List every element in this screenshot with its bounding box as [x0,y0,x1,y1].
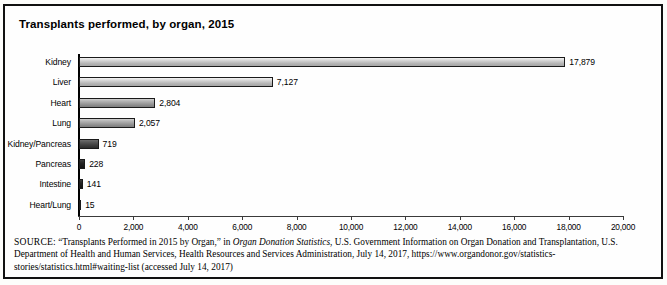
bar-value-label: 2,804 [159,98,180,108]
category-label: Heart [50,98,71,108]
bar [79,57,565,67]
source-italic-title: Organ Donation Statistics [233,237,330,247]
bar-value-label: 7,127 [277,77,298,87]
category-label: Lung [52,118,71,128]
bar-row: Lung2,057 [0,113,660,133]
x-tick-label: 10,000 [339,222,363,232]
x-tick [242,216,243,220]
bar-value-label: 2,057 [139,118,160,128]
category-label: Kidney [45,57,71,67]
source-label: SOURCE: [14,236,56,247]
x-tick-label: 0 [77,222,81,232]
x-tick [623,216,624,220]
bar [79,77,273,87]
x-tick-label: 18,000 [557,222,581,232]
bar [79,139,99,149]
category-label: Kidney/Pancreas [8,139,71,149]
page-title: Transplants performed, by organ, 2015 [19,18,234,30]
bar-row: Pancreas228 [0,154,660,174]
x-tick [297,216,298,220]
bar [79,118,135,128]
x-tick-label: 2,000 [124,222,144,232]
category-label: Heart/Lung [29,200,71,210]
x-tick [405,216,406,220]
category-label: Liver [53,77,71,87]
bar-value-label: 228 [89,159,103,169]
figure-container: Transplants performed, by organ, 2015 Ki… [0,0,667,285]
source-part1: “Transplants Performed in 2015 by Organ,… [56,237,233,247]
bar-row: Intestine141 [0,174,660,194]
x-tick [79,216,80,220]
x-tick-label: 6,000 [232,222,252,232]
x-tick [460,216,461,220]
bar-value-label: 719 [103,139,117,149]
x-tick-label: 8,000 [287,222,307,232]
bar [79,159,85,169]
x-tick [133,216,134,220]
bar-value-label: 17,879 [569,57,595,67]
bar-row: Liver7,127 [0,72,660,92]
category-label: Pancreas [35,159,71,169]
bar-row: Heart/Lung15 [0,195,660,215]
x-tick-label: 20,000 [611,222,635,232]
bar [79,98,155,108]
bar [79,200,81,210]
bar-value-label: 141 [87,179,101,189]
bar-row: Kidney17,879 [0,52,660,72]
x-tick-label: 12,000 [393,222,417,232]
x-tick-label: 4,000 [178,222,198,232]
bar-value-label: 15 [85,200,94,210]
x-tick [569,216,570,220]
source-note: SOURCE: “Transplants Performed in 2015 b… [14,236,650,273]
category-label: Intestine [39,179,71,189]
x-tick-label: 16,000 [502,222,526,232]
x-tick [351,216,352,220]
bar-row: Heart2,804 [0,93,660,113]
bar-row: Kidney/Pancreas719 [0,134,660,154]
x-tick [514,216,515,220]
bar [79,179,83,189]
chart-plot-area: Kidney17,879Liver7,127Heart2,804Lung2,05… [0,44,660,224]
x-tick [188,216,189,220]
x-tick-label: 14,000 [448,222,472,232]
